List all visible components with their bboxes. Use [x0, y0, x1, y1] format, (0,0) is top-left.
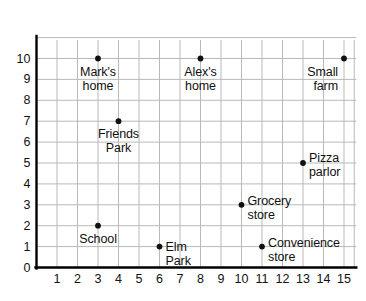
y-tick-label: 3: [4, 199, 31, 212]
x-tick-label: 11: [256, 273, 269, 286]
x-tick-label: 13: [296, 273, 310, 286]
y-tick-label: 10: [4, 52, 31, 65]
point-label: School: [79, 232, 117, 246]
y-tick-label: 4: [4, 178, 31, 191]
data-point[interactable]: [198, 56, 204, 62]
data-point[interactable]: [95, 56, 101, 62]
x-tick-label: 10: [235, 273, 249, 286]
x-tick-label: 8: [197, 273, 204, 286]
point-label: Friends Park: [98, 127, 139, 155]
point-label: Elm Park: [166, 240, 191, 268]
x-tick-label: 7: [177, 273, 184, 286]
x-tick-label: 12: [276, 273, 290, 286]
scatter-plot-chart: 123456789101112131415 012345678910 Mark'…: [0, 0, 366, 301]
y-tick-label: 8: [4, 94, 31, 107]
x-tick-label: 1: [54, 273, 61, 286]
data-point[interactable]: [157, 244, 163, 250]
y-tick-label: 5: [4, 157, 31, 170]
data-point[interactable]: [95, 223, 101, 229]
point-label: Grocery store: [248, 194, 292, 222]
y-tick-label: 0: [4, 261, 31, 274]
x-tick-label: 6: [156, 273, 163, 286]
x-tick-label: 4: [115, 273, 122, 286]
data-point[interactable]: [116, 118, 122, 124]
data-point[interactable]: [300, 160, 306, 166]
x-tick-label: 2: [74, 273, 81, 286]
x-tick-label: 14: [317, 273, 331, 286]
data-point[interactable]: [341, 56, 347, 62]
data-point[interactable]: [239, 202, 245, 208]
point-label: Small farm: [307, 65, 338, 93]
y-tick-label: 6: [4, 136, 31, 149]
y-tick-label: 1: [4, 240, 31, 253]
x-tick-label: 9: [218, 273, 225, 286]
x-tick-label: 3: [95, 273, 102, 286]
y-tick-label: 7: [4, 115, 31, 128]
x-tick-label: 15: [337, 273, 351, 286]
point-label: Convenience store: [268, 236, 340, 264]
point-label: Pizza parlor: [309, 151, 340, 179]
data-point[interactable]: [259, 244, 265, 250]
point-label: Alex's home: [184, 65, 216, 93]
y-tick-label: 2: [4, 219, 31, 232]
point-label: Mark's home: [80, 65, 116, 93]
x-tick-label: 5: [136, 273, 143, 286]
y-tick-label: 9: [4, 73, 31, 86]
